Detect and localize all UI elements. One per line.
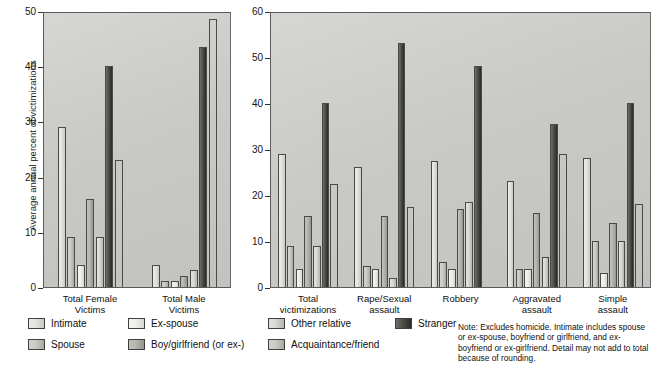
bar bbox=[389, 278, 397, 287]
legend-label: Intimate bbox=[51, 318, 87, 329]
y-axis-tick-label: 0 bbox=[257, 283, 263, 293]
bar bbox=[618, 241, 626, 287]
bar bbox=[161, 281, 169, 287]
legend-label: Boy/girlfriend (or ex-) bbox=[151, 339, 244, 350]
bar bbox=[296, 269, 304, 287]
bar bbox=[550, 124, 558, 287]
x-axis-category-label: Rape/Sexual assault bbox=[346, 293, 422, 315]
y-axis-tick-label: 20 bbox=[252, 191, 263, 201]
legend-item[interactable]: Boy/girlfriend (or ex-) bbox=[128, 339, 244, 350]
bar bbox=[209, 19, 217, 287]
bar bbox=[199, 47, 207, 287]
y-axis-tick bbox=[38, 12, 43, 13]
bar bbox=[457, 209, 465, 287]
x-axis-category-label: Total victimizations bbox=[270, 293, 346, 315]
bar bbox=[86, 199, 94, 287]
bar bbox=[115, 160, 123, 287]
y-axis-tick-label: 0 bbox=[30, 283, 36, 293]
legend-item[interactable]: Spouse bbox=[28, 339, 85, 350]
bar bbox=[67, 237, 75, 287]
legend-swatch-icon bbox=[128, 318, 145, 329]
bar bbox=[559, 154, 567, 287]
bar bbox=[583, 158, 591, 287]
legend-label: Acquaintance/friend bbox=[291, 339, 379, 350]
legend-swatch-icon bbox=[268, 318, 285, 329]
y-axis-tick bbox=[38, 67, 43, 68]
bar bbox=[474, 66, 482, 287]
bar bbox=[516, 269, 524, 287]
bar bbox=[96, 237, 104, 287]
y-axis-tick bbox=[38, 233, 43, 234]
bar bbox=[105, 66, 113, 287]
chart-panel-left: 01020304050 Total Female VictimsTotal Ma… bbox=[43, 12, 231, 288]
legend-label: Other relative bbox=[291, 318, 351, 329]
legend-item[interactable]: Intimate bbox=[28, 318, 87, 329]
x-axis-category-label: Robbery bbox=[422, 293, 498, 304]
legend-swatch-icon bbox=[28, 339, 45, 350]
bar bbox=[533, 213, 541, 287]
bar bbox=[381, 216, 389, 287]
chart-panel-right: 0102030405060 Total victimizationsRape/S… bbox=[270, 12, 651, 288]
legend-swatch-icon bbox=[395, 318, 412, 329]
bar bbox=[627, 103, 635, 287]
y-axis-tick-label: 30 bbox=[25, 117, 36, 127]
bar bbox=[448, 269, 456, 287]
bar bbox=[609, 223, 617, 287]
bar bbox=[322, 103, 330, 287]
y-axis-tick-label: 10 bbox=[25, 228, 36, 238]
legend-label: Stranger bbox=[418, 318, 456, 329]
bar bbox=[635, 204, 643, 287]
y-axis-tick bbox=[265, 196, 270, 197]
bar bbox=[287, 246, 295, 287]
y-axis-tick bbox=[265, 150, 270, 151]
bar bbox=[180, 276, 188, 287]
chart-figure: Average annual percent of victimizations… bbox=[0, 0, 660, 377]
bar bbox=[363, 266, 371, 287]
y-axis-tick bbox=[265, 288, 270, 289]
chart-note: Note: Excludes homicide. Intimate includ… bbox=[458, 322, 654, 363]
y-axis-tick-label: 30 bbox=[252, 145, 263, 155]
bar bbox=[524, 269, 532, 287]
y-axis-tick bbox=[265, 104, 270, 105]
x-axis-category-label: Aggravated assault bbox=[499, 293, 575, 315]
bar bbox=[77, 265, 85, 287]
y-axis-tick-label: 40 bbox=[252, 99, 263, 109]
legend-item[interactable]: Other relative bbox=[268, 318, 351, 329]
bar bbox=[542, 257, 550, 287]
bar bbox=[507, 181, 515, 287]
legend-item[interactable]: Acquaintance/friend bbox=[268, 339, 379, 350]
bar bbox=[58, 127, 66, 287]
legend-label: Spouse bbox=[51, 339, 85, 350]
legend-swatch-icon bbox=[28, 318, 45, 329]
bar bbox=[439, 262, 447, 287]
bar bbox=[600, 273, 608, 287]
legend-item[interactable]: Stranger bbox=[395, 318, 456, 329]
bar bbox=[592, 241, 600, 287]
legend-label: Ex-spouse bbox=[151, 318, 198, 329]
bar bbox=[313, 246, 321, 287]
y-axis-tick bbox=[265, 58, 270, 59]
legend-swatch-icon bbox=[268, 339, 285, 350]
y-axis-tick-label: 50 bbox=[25, 7, 36, 17]
y-axis-tick bbox=[38, 178, 43, 179]
y-axis-tick-label: 40 bbox=[25, 62, 36, 72]
y-axis-tick bbox=[38, 288, 43, 289]
bar bbox=[304, 216, 312, 287]
y-axis-tick-label: 20 bbox=[25, 173, 36, 183]
y-axis-tick bbox=[38, 122, 43, 123]
bar bbox=[372, 269, 380, 287]
bar bbox=[278, 154, 286, 287]
bar bbox=[330, 184, 338, 288]
bar bbox=[152, 265, 160, 287]
y-axis-tick bbox=[265, 242, 270, 243]
bar bbox=[465, 202, 473, 287]
bar bbox=[398, 43, 406, 287]
legend-swatch-icon bbox=[128, 339, 145, 350]
x-axis-category-label: Total Female Victims bbox=[43, 293, 137, 315]
y-axis-tick-label: 10 bbox=[252, 237, 263, 247]
bar bbox=[171, 281, 179, 287]
bar bbox=[431, 161, 439, 288]
legend-item[interactable]: Ex-spouse bbox=[128, 318, 198, 329]
x-axis-category-label: Total Male Victims bbox=[137, 293, 231, 315]
y-axis-tick-label: 50 bbox=[252, 53, 263, 63]
